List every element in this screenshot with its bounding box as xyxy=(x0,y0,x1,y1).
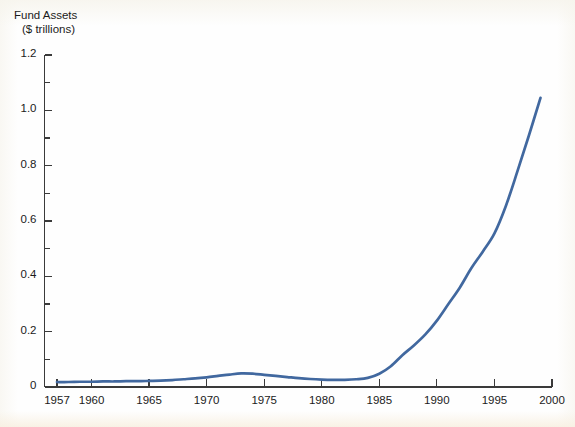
x-axis-tick-label: 1980 xyxy=(302,394,342,406)
y-axis-tick-label: 1.0 xyxy=(3,102,37,114)
x-axis-tick-label: 1970 xyxy=(187,394,227,406)
y-axis-title-line-1: Fund Assets xyxy=(14,8,77,22)
x-axis-tick-label: 1990 xyxy=(417,394,457,406)
y-axis-tick-label: 0.2 xyxy=(3,324,37,336)
y-axis-title-line-2: ($ trillions) xyxy=(22,22,75,36)
chart-axes xyxy=(45,55,553,387)
x-axis-tick-label: 1960 xyxy=(72,394,112,406)
line-chart-plot xyxy=(0,0,575,427)
y-axis-tick-label: 0.8 xyxy=(3,158,37,170)
y-axis-tick-label: 0 xyxy=(3,379,37,391)
chart-figure: Fund Assets ($ trillions) 00.20.40.60.81… xyxy=(0,0,575,427)
x-axis-tick-label: 2000 xyxy=(532,394,572,406)
series-line-fund-assets xyxy=(57,98,540,382)
x-axis-tick-label: 1985 xyxy=(359,394,399,406)
x-axis-tick-label: 1965 xyxy=(129,394,169,406)
x-axis-tick-label: 1995 xyxy=(474,394,514,406)
x-axis-tick-label: 1975 xyxy=(244,394,284,406)
y-axis-tick-label: 0.4 xyxy=(3,268,37,280)
y-axis-tick-label: 0.6 xyxy=(3,213,37,225)
chart-series xyxy=(57,98,540,382)
y-axis-tick-label: 1.2 xyxy=(3,47,37,59)
